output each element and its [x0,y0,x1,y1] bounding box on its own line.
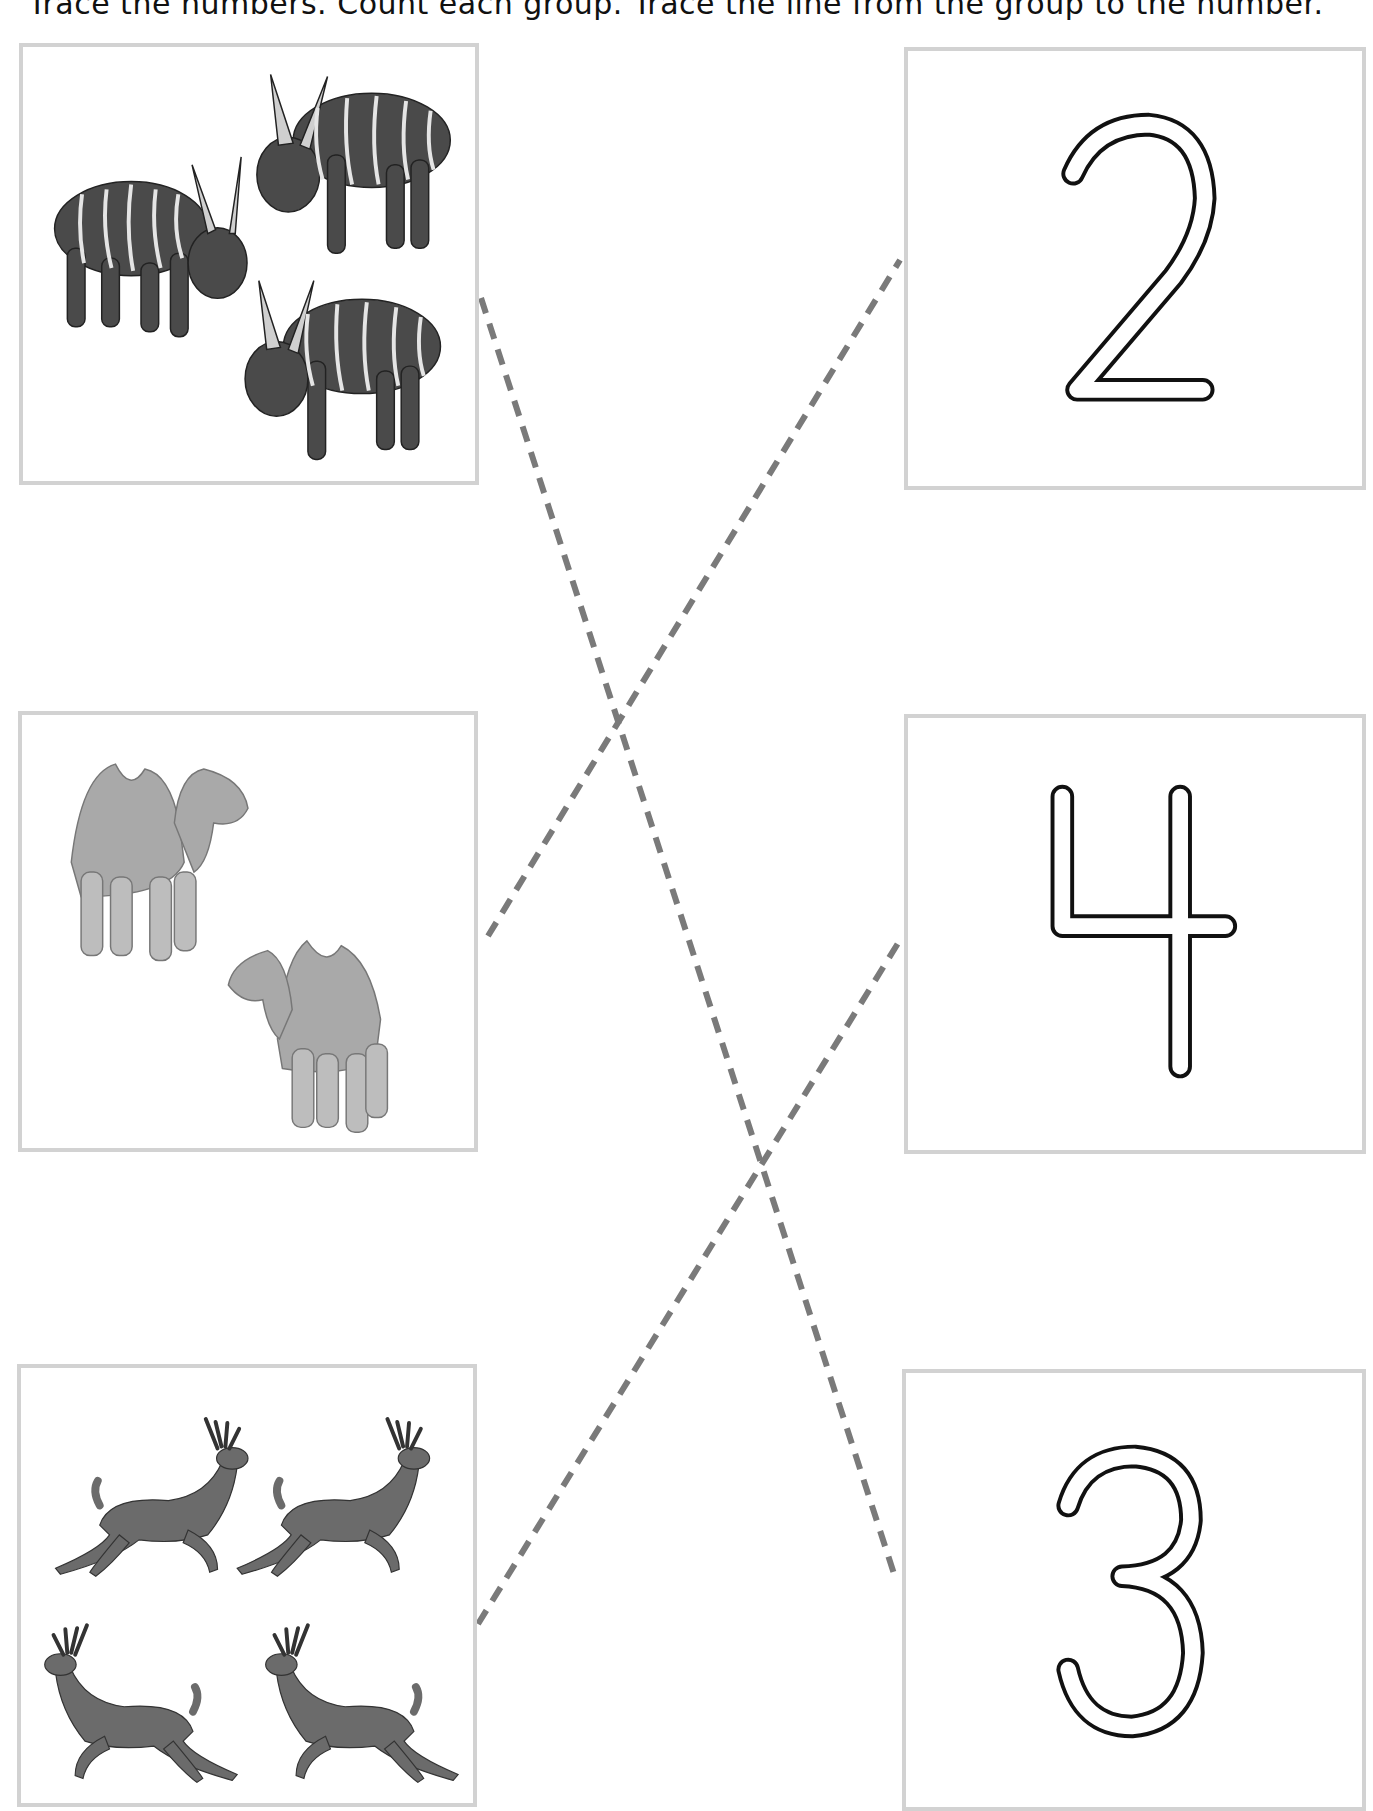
group-box-deer[interactable]: 4 deer [17,1364,477,1807]
number-box-4[interactable]: 4 [904,714,1366,1154]
numeral-3-tracing [906,1373,1362,1807]
camel-icon [71,764,387,1132]
bongo-icon [55,157,247,337]
trace-line-camels-to-2[interactable] [488,260,900,936]
camel-illustration [22,715,474,1148]
trace-line-deer-to-4[interactable] [478,940,900,1624]
trace-line-bongos-to-3[interactable] [481,298,896,1580]
deer-illustration [21,1368,473,1803]
bongo-illustration [23,47,475,481]
number-box-2[interactable]: 2 [904,47,1366,490]
deer-icon [45,1419,458,1782]
group-box-camels[interactable]: 2 camels [18,711,478,1152]
group-box-bongos[interactable]: 3 bongo antelopes [19,43,479,485]
numeral-4-tracing [908,718,1362,1150]
instructions-text: Trace the numbers. Count each group. Tra… [28,0,1324,22]
number-box-3[interactable]: 3 [902,1369,1366,1811]
numeral-2-tracing [908,51,1362,486]
